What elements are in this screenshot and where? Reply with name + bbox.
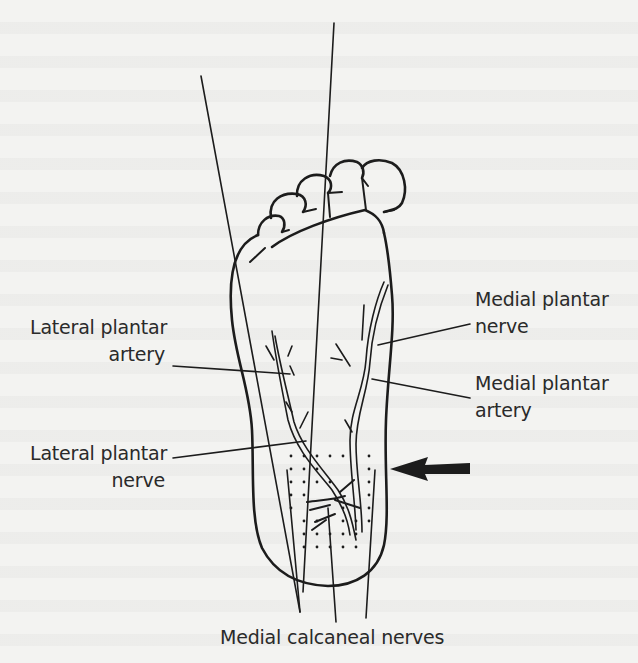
toe-4 bbox=[271, 194, 306, 218]
heel-stipple bbox=[290, 455, 371, 549]
label-line-1: Lateral plantar bbox=[30, 440, 165, 467]
foot-anatomy-figure: Medial plantar nerve Lateral plantar art… bbox=[0, 0, 638, 663]
label-lateral-plantar-artery: Lateral plantar artery bbox=[30, 314, 165, 368]
toe-base-line bbox=[272, 210, 384, 247]
label-line-1: Lateral plantar bbox=[30, 314, 165, 341]
label-medial-plantar-nerve: Medial plantar nerve bbox=[475, 286, 609, 340]
calcaneal-nerve-line-center bbox=[328, 508, 336, 622]
leader-lateral-plantar-artery bbox=[173, 366, 290, 374]
label-line-1: Medial plantar bbox=[475, 370, 609, 397]
label-medial-plantar-artery: Medial plantar artery bbox=[475, 370, 609, 424]
label-line-2: artery bbox=[475, 397, 609, 424]
label-line-2: nerve bbox=[30, 467, 165, 494]
left-guide-line bbox=[201, 76, 300, 612]
right-guide-line bbox=[303, 23, 334, 592]
toe-2 bbox=[330, 161, 363, 178]
calcaneal-nerve-line-left bbox=[287, 470, 300, 612]
arrow-left-icon bbox=[390, 457, 470, 481]
foot-outline bbox=[231, 233, 393, 586]
label-line-1: Medial calcaneal nerves bbox=[220, 624, 444, 651]
leader-lateral-plantar-nerve bbox=[173, 441, 306, 458]
label-line-2: nerve bbox=[475, 313, 609, 340]
label-lateral-plantar-nerve: Lateral plantar nerve bbox=[30, 440, 165, 494]
label-line-1: Medial plantar bbox=[475, 286, 609, 313]
calcaneal-nerve-line-right bbox=[366, 470, 375, 618]
medial-plantar-vessels bbox=[331, 282, 388, 532]
label-line-2: artery bbox=[30, 341, 165, 368]
label-medial-calcaneal-nerves: Medial calcaneal nerves bbox=[220, 624, 444, 651]
